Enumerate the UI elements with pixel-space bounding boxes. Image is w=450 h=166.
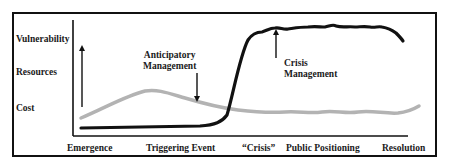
anticipatory-management-curve — [81, 90, 419, 118]
x-label-resolution: Resolution — [382, 143, 425, 154]
annotation-line: Management — [284, 69, 337, 80]
x-label-emergence: Emergence — [67, 143, 112, 154]
annotation-line: Management — [143, 61, 196, 72]
annotation-crisis-management: Crisis Management — [284, 58, 337, 80]
y-label-vulnerability: Vulnerability — [16, 34, 70, 45]
x-label-public-positioning: Public Positioning — [286, 143, 360, 154]
x-label-triggering-event: Triggering Event — [146, 143, 215, 154]
x-label-crisis: “Crisis” — [242, 143, 275, 154]
y-label-cost: Cost — [16, 103, 34, 114]
diagram-plot — [0, 0, 450, 166]
annotation-anticipatory-management: Anticipatory Management — [143, 50, 196, 72]
annotation-line: Crisis — [284, 58, 337, 69]
y-label-resources: Resources — [16, 67, 57, 78]
annotation-line: Anticipatory — [143, 50, 196, 61]
